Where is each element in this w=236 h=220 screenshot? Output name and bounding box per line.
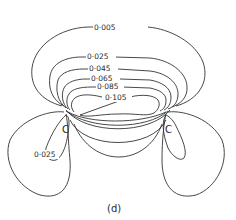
- atom-label-right-carbon: C: [165, 124, 172, 135]
- lobe-label-left: 0·025: [34, 150, 56, 159]
- atom-label-left-carbon: C: [62, 124, 69, 135]
- contour-diagram: 0·005 0·025 0·045 0·065 0·085 0·105 0·02…: [0, 0, 236, 220]
- contour-label-0045: 0·045: [89, 64, 111, 73]
- contour-label-0005: 0·005: [94, 23, 116, 32]
- contour-band-4: [70, 120, 166, 143]
- panel-caption: (d): [107, 203, 121, 214]
- right-inner-lobe: [163, 115, 185, 159]
- contour-label-0085: 0·085: [97, 82, 119, 91]
- contour-label-0025: 0·025: [87, 52, 109, 61]
- contour-label-0105: 0·105: [105, 93, 127, 102]
